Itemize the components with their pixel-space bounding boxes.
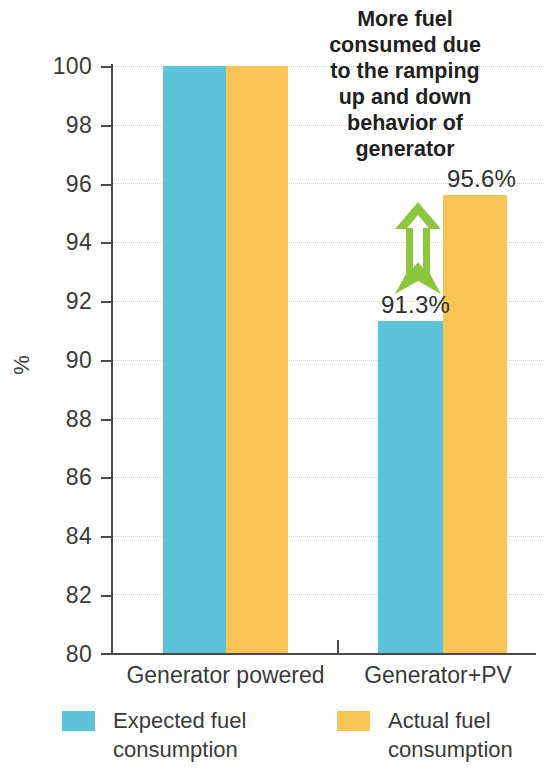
y-tick-label-88: 88 xyxy=(30,406,92,433)
bar-generator-powered-actual[interactable] xyxy=(226,66,288,653)
y-tick-label-92: 92 xyxy=(30,288,92,315)
legend-label-expected-line1: Expected fuel xyxy=(113,706,263,735)
annotation-line-4: up and down xyxy=(305,84,505,110)
y-tick-label-86: 86 xyxy=(30,464,92,491)
annotation-line-3: to the ramping xyxy=(305,58,505,84)
y-tick-label-94: 94 xyxy=(30,229,92,256)
legend-label-expected: Expected fuel consumption xyxy=(113,706,263,764)
legend-item-expected[interactable]: Expected fuel consumption xyxy=(62,706,263,764)
chart-legend: Expected fuel consumption Actual fuel co… xyxy=(0,706,544,770)
legend-label-actual-line1: Actual fuel xyxy=(388,706,538,735)
up-arrow-icon xyxy=(394,202,442,294)
fuel-consumption-bar-chart: % 100 98 96 94 92 90 88 86 84 82 80 xyxy=(0,0,544,770)
bar-generator-pv-actual[interactable] xyxy=(443,195,507,653)
x-axis-line xyxy=(112,653,536,655)
legend-label-expected-line2: consumption xyxy=(113,735,263,764)
legend-swatch-expected-icon xyxy=(62,711,95,731)
annotation-line-2: consumed due xyxy=(305,32,505,58)
legend-item-actual[interactable]: Actual fuel consumption xyxy=(337,706,538,764)
legend-swatch-actual-icon xyxy=(337,711,370,731)
y-tick-label-80: 80 xyxy=(30,641,92,668)
value-label-generator-pv-actual: 95.6% xyxy=(447,165,516,193)
x-axis-label-generator-powered: Generator powered xyxy=(113,662,338,689)
y-tick-label-100: 100 xyxy=(30,53,92,80)
y-tick-label-82: 82 xyxy=(30,582,92,609)
value-label-generator-pv-expected: 91.3% xyxy=(381,291,450,319)
bar-generator-powered-expected[interactable] xyxy=(163,66,226,653)
annotation-ramping-note: More fuel consumed due to the ramping up… xyxy=(305,6,505,162)
bar-generator-pv-expected[interactable] xyxy=(378,321,443,653)
annotation-line-6: generator xyxy=(305,136,505,162)
y-axis-line xyxy=(111,64,113,655)
legend-label-actual: Actual fuel consumption xyxy=(388,706,538,764)
legend-label-actual-line2: consumption xyxy=(388,735,538,764)
x-tick-mark xyxy=(337,640,339,653)
y-tick-label-90: 90 xyxy=(30,347,92,374)
y-tick-label-84: 84 xyxy=(30,523,92,550)
y-tick-label-98: 98 xyxy=(30,112,92,139)
y-tick-label-96: 96 xyxy=(30,171,92,198)
annotation-line-5: behavior of xyxy=(305,110,505,136)
annotation-line-1: More fuel xyxy=(305,6,505,32)
x-axis-label-generator-pv: Generator+PV xyxy=(343,662,533,689)
